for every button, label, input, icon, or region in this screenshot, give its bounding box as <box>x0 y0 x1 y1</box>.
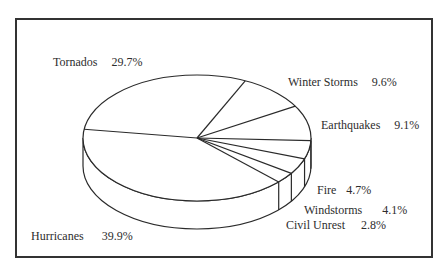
label-tornados: Tornados29.7% <box>53 55 142 70</box>
label-winter-storms: Winter Storms9.6% <box>288 75 397 90</box>
label-windstorms: Windstorms4.1% <box>304 203 407 218</box>
label-fire: Fire4.7% <box>317 183 371 198</box>
label-hurricanes: Hurricanes39.9% <box>31 229 133 244</box>
label-earthquakes: Earthquakes9.1% <box>321 118 419 133</box>
label-civil-unrest: Civil Unrest2.8% <box>286 218 386 233</box>
